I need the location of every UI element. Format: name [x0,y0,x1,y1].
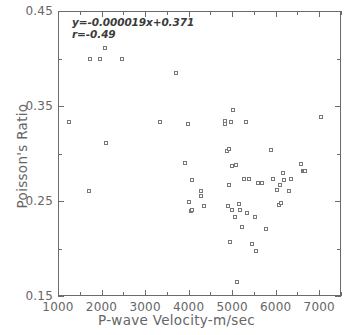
data-point [264,227,268,231]
data-point [281,171,285,175]
x-axis-tick [297,11,298,15]
x-axis-tick [80,292,81,296]
regression-annotation: y=-0.000019x+0.371 r=-0.49 [72,17,194,41]
y-axis-tick [58,106,64,107]
y-axis-tick [58,201,64,202]
data-point [269,148,273,152]
data-point [186,122,190,126]
data-point [190,178,194,182]
x-axis-tick [341,11,342,15]
data-point [237,202,241,206]
y-axis-tick [58,249,62,250]
data-point [228,240,232,244]
data-point [87,189,91,193]
data-point [199,189,203,193]
data-point [227,183,231,187]
data-point [202,204,206,208]
y-axis-tick [335,11,341,12]
y-axis-tick [337,154,341,155]
y-axis-tick [335,106,341,107]
data-point [158,120,162,124]
x-axis-tick [297,292,298,296]
data-point [289,177,293,181]
data-point [187,200,191,204]
x-axis-tick [167,11,168,15]
y-axis-tick [337,249,341,250]
data-point [190,208,194,212]
x-axis-tick [102,11,103,17]
data-point [287,189,291,193]
data-point [275,188,279,192]
data-point [260,181,264,185]
data-point [242,177,246,181]
x-axis-title: P-wave Velocity-m/sec [0,312,353,328]
data-point [98,57,102,61]
y-axis-tick [58,296,64,297]
data-point [227,147,231,151]
data-point [279,201,283,205]
x-axis-tick [210,292,211,296]
x-axis-tick [232,290,233,296]
y-axis-tick [58,11,64,12]
data-point [244,120,248,124]
data-point [235,280,239,284]
data-point [240,225,244,229]
data-point [174,71,178,75]
data-point [299,162,303,166]
x-axis-tick [167,292,168,296]
x-axis-tick [254,11,255,15]
data-point [247,177,251,181]
data-point [88,57,92,61]
data-point [253,215,257,219]
x-axis-tick [276,11,277,17]
data-point [319,115,323,119]
x-axis-tick [145,11,146,17]
data-point [233,215,237,219]
data-point [234,163,238,167]
data-point [271,177,275,181]
x-axis-tick [276,290,277,296]
data-point [183,161,187,165]
scatter-plot-figure: y=-0.000019x+0.371 r=-0.49 1000200030004… [0,0,353,335]
correlation-coefficient-text: r=-0.49 [72,29,194,41]
data-point [223,119,227,123]
x-axis-tick [189,11,190,17]
x-axis-tick [123,292,124,296]
x-axis-tick [232,11,233,17]
y-axis-title: Poisson's Ratio [14,56,30,256]
x-axis-tick [254,292,255,296]
x-axis-tick [145,290,146,296]
data-point [278,183,282,187]
x-axis-tick [80,11,81,15]
data-point [104,141,108,145]
y-axis-tick [335,201,341,202]
y-tick-label: 0.45 [25,4,53,18]
data-point [250,242,254,246]
x-axis-tick [341,292,342,296]
data-point [103,46,107,50]
data-point [303,169,307,173]
data-point [254,249,258,253]
y-axis-tick [58,154,62,155]
data-point [229,120,233,124]
data-point [199,194,203,198]
x-axis-tick [123,11,124,15]
x-axis-tick [210,11,211,15]
plot-area [58,11,341,296]
regression-equation-text: y=-0.000019x+0.371 [72,17,194,29]
y-axis-tick [58,59,62,60]
x-axis-tick [319,11,320,17]
y-tick-label: 0.15 [25,289,53,303]
y-axis-tick [335,296,341,297]
data-point [120,57,124,61]
data-point [230,208,234,212]
data-point [282,178,286,182]
data-point [231,108,235,112]
data-point [67,120,71,124]
x-axis-tick [102,290,103,296]
x-axis-tick [189,290,190,296]
data-point [238,208,242,212]
y-axis-tick [337,59,341,60]
x-axis-tick [319,290,320,296]
data-point [245,211,249,215]
